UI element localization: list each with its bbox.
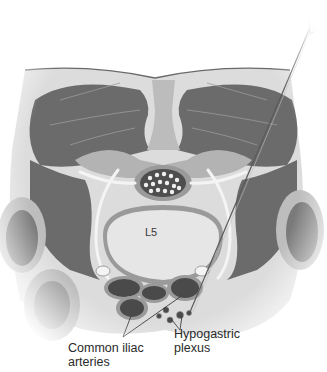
hypogastric-plexus-label: Hypogastric plexus [174, 327, 240, 355]
anatomy-cross-section [0, 0, 327, 372]
hypogastric-label-line1: Hypogastric [174, 327, 240, 341]
common-iliac-label-line1: Common iliac [68, 341, 144, 355]
common-iliac-arteries-label: Common iliac arteries [68, 341, 144, 369]
vertebra-label: L5 [145, 226, 157, 238]
hypogastric-label-line2: plexus [174, 341, 240, 355]
common-iliac-label-line2: arteries [68, 355, 144, 369]
